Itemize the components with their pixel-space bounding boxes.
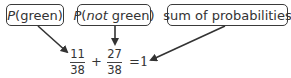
label-p-green: P(green) xyxy=(6,4,64,26)
p-symbol: P xyxy=(74,8,82,23)
not-text: not xyxy=(86,8,107,23)
fraction-green: 11 38 xyxy=(70,48,85,77)
label-sum-of-probabilities: sum of probabilities xyxy=(167,4,288,26)
sum-text: sum of probabilities xyxy=(163,8,291,23)
p-symbol: P xyxy=(7,8,15,23)
equals-sign: = xyxy=(129,54,140,69)
denominator: 38 xyxy=(107,64,122,77)
fraction-not-green: 27 38 xyxy=(107,48,122,77)
result-value: 1 xyxy=(140,54,148,69)
numerator: 11 xyxy=(70,48,85,61)
green-text: green) xyxy=(108,8,155,23)
numerator: 27 xyxy=(107,48,122,61)
plus-sign: + xyxy=(91,54,102,69)
label-p-not-green: P(not green) xyxy=(77,4,151,26)
p-green-text: (green) xyxy=(15,8,63,23)
arrow-sum xyxy=(151,26,225,60)
denominator: 38 xyxy=(70,64,85,77)
arrow-p-green xyxy=(38,26,67,52)
